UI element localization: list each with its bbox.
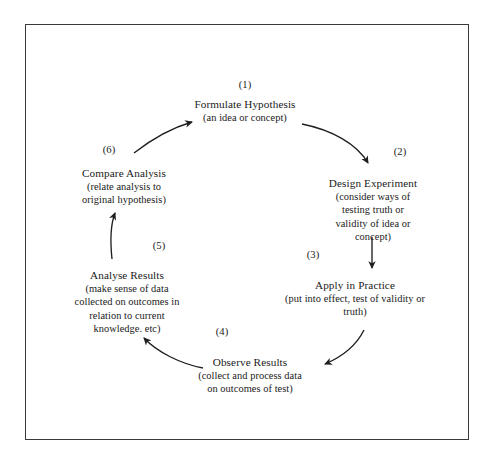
step-title-6: Compare Analysis xyxy=(62,166,186,180)
step-number-4: (4) xyxy=(207,326,237,337)
step-desc-2: (consider ways of testing truth or valid… xyxy=(312,190,434,243)
step-title-3: Apply in Practice xyxy=(271,278,439,292)
step-desc-1: (an idea or concept) xyxy=(180,111,310,124)
step-title-5: Analyse Results xyxy=(55,268,199,282)
step-number-5: (5) xyxy=(144,240,174,251)
step-number-3: (3) xyxy=(298,249,328,260)
step-number-1: (1) xyxy=(230,79,260,90)
step-desc-6: (relate analysis to original hypothesis) xyxy=(57,180,191,207)
step-title-4: Observe Results xyxy=(181,355,319,369)
step-desc-3: (put into effect, test of validity or tr… xyxy=(271,292,439,319)
step-desc-5: (make sense of data collected on outcome… xyxy=(55,282,199,335)
step-number-6: (6) xyxy=(94,144,124,155)
diagram-canvas: (1) Formulate Hypothesis (an idea or con… xyxy=(0,0,494,463)
step-desc-4: (collect and process data on outcomes of… xyxy=(181,369,319,396)
step-title-1: Formulate Hypothesis xyxy=(180,97,310,111)
step-number-2: (2) xyxy=(385,146,415,157)
step-title-2: Design Experiment xyxy=(312,176,434,190)
